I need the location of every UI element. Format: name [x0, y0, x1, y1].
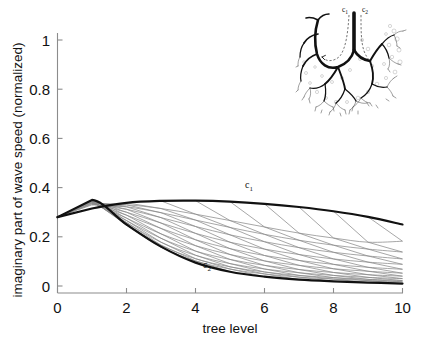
x-ticklabel-6: 6: [260, 299, 268, 316]
x-ticklabel-4: 4: [191, 299, 199, 316]
x-ticklabel-10: 10: [394, 299, 411, 316]
figure-background: [0, 0, 425, 355]
x-ticklabel-0: 0: [53, 299, 61, 316]
y-axis-title: imaginary part of wave speed (normalized…: [10, 42, 25, 297]
y-ticklabel-0: 0: [42, 278, 50, 295]
x-ticklabel-8: 8: [329, 299, 337, 316]
figure-container: 1 0.8 0.6 0.4 0.2 0 0 2 4 6 8 10 tree le…: [0, 0, 425, 355]
y-ticklabel-0.8: 0.8: [29, 81, 50, 98]
inset-label-c1-sub: 1: [345, 9, 348, 15]
y-ticklabel-0.2: 0.2: [29, 228, 50, 245]
x-axis-title: tree level: [203, 321, 258, 336]
y-ticklabel-0.4: 0.4: [29, 179, 50, 196]
chart-svg: 1 0.8 0.6 0.4 0.2 0 0 2 4 6 8 10 tree le…: [0, 0, 425, 355]
inset-label-c2-sub: 2: [365, 9, 368, 15]
y-ticklabel-1: 1: [42, 32, 50, 49]
curve-label-c1-sub: 1: [249, 185, 253, 193]
curve-label-c2-sub: 2: [207, 265, 211, 273]
x-ticklabel-2: 2: [122, 299, 130, 316]
y-ticklabel-0.6: 0.6: [29, 130, 50, 147]
